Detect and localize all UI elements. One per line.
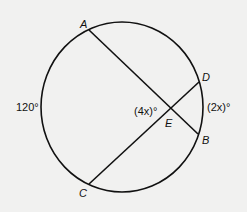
point-label-C: C	[79, 188, 87, 199]
point-label-D: D	[202, 72, 210, 83]
geometry-diagram: A D (2x)° 120° (4x)° E B C	[0, 0, 247, 212]
chord-AB	[89, 30, 198, 134]
chord-CD	[89, 82, 199, 184]
point-label-B: B	[202, 135, 209, 146]
arc-label-AC: 120°	[16, 102, 39, 113]
point-label-A: A	[80, 19, 87, 30]
angle-label-AEC: (4x)°	[134, 106, 157, 117]
arc-label-DB: (2x)°	[207, 102, 230, 113]
point-label-E: E	[165, 118, 172, 129]
circle	[41, 22, 203, 192]
